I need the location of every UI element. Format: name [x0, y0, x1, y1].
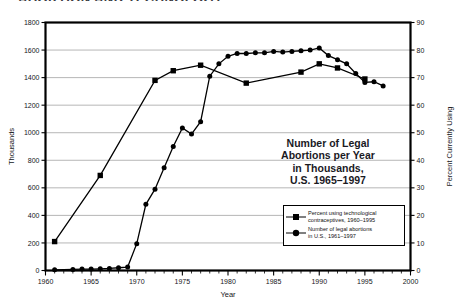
y-axis-tick-label: 400 [28, 212, 40, 219]
data-point-circle [289, 49, 294, 54]
inner-title-line-4: U.S. 1965–1997 [252, 174, 404, 186]
y2-axis-tick-label: 30 [417, 184, 425, 191]
data-point-square [317, 61, 322, 66]
data-point-circle [207, 74, 212, 79]
y2-axis-title: Percent Currently Using [445, 107, 454, 187]
data-point-circle [80, 267, 85, 272]
x-axis-tick-label: 2000 [403, 278, 419, 285]
y-axis-tick-label: 0 [36, 267, 40, 274]
legend-item-label: Number of legal abortions in U.S., 1961–… [306, 226, 372, 240]
data-point-circle [162, 165, 167, 170]
data-point-circle [189, 132, 194, 137]
y-axis-tick-label: 600 [28, 184, 40, 191]
legend-item-label: Percent using technological contraceptiv… [306, 210, 376, 224]
data-point-circle [198, 119, 203, 124]
data-point-circle [107, 266, 112, 271]
y2-axis-tick-label: 70 [417, 74, 425, 81]
chart-screenshot: ABORTION AND TECHNOLOGY 1960196519701975… [0, 0, 463, 301]
y2-axis-tick-label: 50 [417, 129, 425, 136]
data-point-circle [153, 187, 158, 192]
x-axis-tick-label: 1970 [129, 278, 145, 285]
data-point-circle [98, 266, 103, 271]
data-point-circle [271, 49, 276, 54]
data-point-circle [362, 80, 367, 85]
data-point-square [171, 68, 176, 73]
data-point-circle [244, 51, 249, 56]
inner-title-line-1: Number of Legal [252, 137, 404, 149]
data-point-square [335, 65, 340, 70]
y2-axis-tick-label: 80 [417, 47, 425, 54]
y-axis-tick-label: 1800 [24, 19, 40, 26]
y-axis-tick-label: 1600 [24, 47, 40, 54]
data-point-circle [70, 267, 75, 272]
x-axis-tick-label: 1965 [83, 278, 99, 285]
data-point-circle [125, 265, 130, 270]
circle-marker-icon [286, 228, 306, 238]
data-point-circle [226, 54, 231, 59]
data-point-circle [180, 125, 185, 130]
data-point-circle [171, 144, 176, 149]
x-axis-tick-label: 1995 [357, 278, 373, 285]
y-axis-tick-label: 1000 [24, 129, 40, 136]
data-point-square [298, 69, 303, 74]
data-point-circle [116, 265, 121, 270]
legend-label-line-1: Percent using technological [308, 210, 376, 216]
x-axis-tick-label: 1990 [311, 278, 327, 285]
legend-label-line-2: contraceptives, 1960–1995 [308, 217, 375, 223]
data-point-circle [344, 61, 349, 66]
data-point-circle [134, 241, 139, 246]
data-point-circle [372, 79, 377, 84]
data-point-circle [235, 51, 240, 56]
data-point-circle [262, 50, 267, 55]
square-marker-icon [286, 212, 306, 222]
inner-title-line-3: in Thousands, [252, 162, 404, 174]
y2-axis-tick-label: 60 [417, 102, 425, 109]
y2-axis-tick-label: 0 [417, 267, 421, 274]
chart-inner-title: Number of Legal Abortions per Year in Th… [252, 137, 404, 187]
data-point-circle [299, 48, 304, 53]
y-axis-tick-label: 1400 [24, 74, 40, 81]
data-point-square [198, 63, 203, 68]
y-axis-title: Thousands [7, 128, 16, 165]
y-axis-tick-label: 200 [28, 240, 40, 247]
data-point-square [52, 239, 57, 244]
legend-item: Percent using technological contraceptiv… [286, 210, 401, 224]
data-point-circle [353, 71, 358, 76]
data-point-circle [381, 83, 386, 88]
legend-item: Number of legal abortions in U.S., 1961–… [286, 226, 401, 240]
data-point-circle [308, 48, 313, 53]
data-point-circle [216, 61, 221, 66]
x-axis-title: Year [220, 290, 236, 299]
x-axis-tick-label: 1975 [175, 278, 191, 285]
x-axis-tick-label: 1985 [266, 278, 282, 285]
data-point-circle [280, 50, 285, 55]
data-point-square [244, 80, 249, 85]
y2-axis-tick-label: 40 [417, 157, 425, 164]
data-point-circle [326, 53, 331, 58]
data-point-circle [317, 45, 322, 50]
legend-label-line-2: in U.S., 1961–1997 [308, 233, 356, 239]
y-axis-tick-label: 1200 [24, 102, 40, 109]
data-point-circle [253, 50, 258, 55]
legend-label-line-1: Number of legal abortions [308, 226, 372, 232]
x-axis-tick-label: 1980 [220, 278, 236, 285]
data-point-circle [52, 267, 57, 272]
y-axis-tick-label: 800 [28, 157, 40, 164]
data-point-square [152, 78, 157, 83]
x-axis-tick-label: 1960 [38, 278, 54, 285]
data-point-circle [143, 202, 148, 207]
data-point-circle [335, 57, 340, 62]
chart-legend: Percent using technological contraceptiv… [283, 205, 405, 246]
data-point-circle [89, 267, 94, 272]
y2-axis-tick-label: 90 [417, 19, 425, 26]
y2-axis-tick-label: 10 [417, 240, 425, 247]
inner-title-line-2: Abortions per Year [252, 149, 404, 161]
data-point-square [98, 173, 103, 178]
y2-axis-tick-label: 20 [417, 212, 425, 219]
